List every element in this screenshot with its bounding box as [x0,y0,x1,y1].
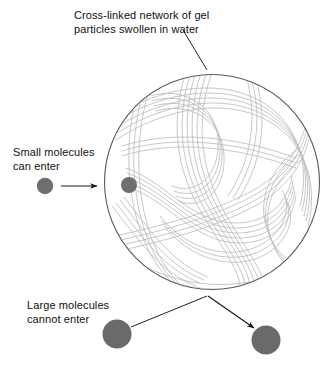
large-molecule-left-leader-line [131,296,207,327]
network-label-line2: particles swollen in water [74,23,199,35]
network-label-line1: Cross-linked network of gel [74,9,209,21]
large-molecules-label-line2: cannot enter [27,313,89,325]
network-label-leader-line [183,30,207,70]
small-molecule-outside [37,178,53,194]
small-molecules-label: Small moleculescan enter [13,145,95,173]
gel-particle-sphere [105,75,320,290]
large-molecule-rejection-arrow [208,296,254,328]
network-label: Cross-linked network of gelparticles swo… [74,8,209,36]
small-molecules-label-line2: can enter [13,160,60,172]
small-molecule-inside [121,177,137,193]
small-molecules-label-line1: Small molecules [13,146,95,158]
large-molecules-label-line1: Large molecules [27,299,109,311]
large-molecule-right [252,326,281,355]
large-molecules-label: Large moleculescannot enter [27,298,109,326]
